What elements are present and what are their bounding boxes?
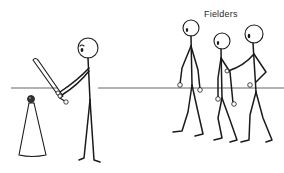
tball-diagram: Fielders xyxy=(0,0,284,173)
fielders-label: Fielders xyxy=(204,9,238,19)
fielder-1 xyxy=(173,20,203,136)
batter-head xyxy=(78,38,98,58)
bat xyxy=(33,59,68,105)
ball xyxy=(28,96,35,103)
fielder-2 xyxy=(214,33,237,142)
batting-tee xyxy=(19,103,46,157)
